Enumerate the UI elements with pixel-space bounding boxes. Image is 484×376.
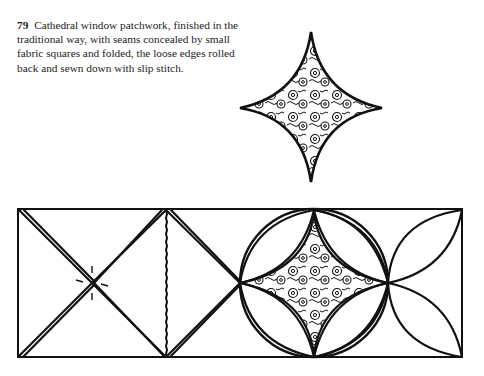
illustration	[0, 0, 484, 376]
patchwork-strip	[18, 209, 462, 358]
section-diamond	[166, 209, 240, 357]
stitched-seam	[166, 210, 167, 358]
patterned-diamond	[235, 28, 385, 186]
section-cathedral-window	[240, 209, 390, 357]
section-folded-square	[19, 209, 166, 357]
